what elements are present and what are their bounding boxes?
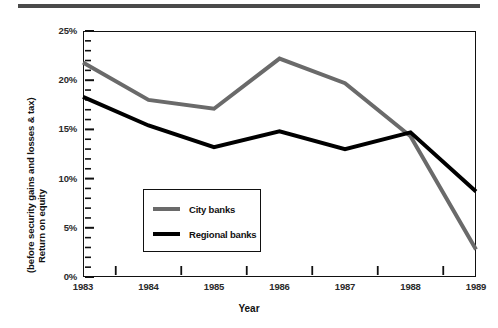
x-tick-label: 1987: [325, 281, 365, 292]
legend-swatch-city-banks: [153, 207, 180, 211]
chart-legend: City banks Regional banks: [143, 189, 261, 252]
x-axis-title: Year: [0, 303, 498, 314]
y-axis-title-line2: (before security gains and losses & tax): [25, 97, 36, 273]
legend-swatch-regional-banks: [153, 232, 180, 236]
legend-label-regional-banks: Regional banks: [189, 229, 256, 240]
x-tick-label: 1984: [129, 281, 169, 292]
y-axis-title-line1: Return on equity: [36, 189, 47, 263]
x-tick-label: 1988: [391, 281, 431, 292]
x-tick-label: 1986: [260, 281, 300, 292]
chart-figure: 0%5%10%15%20%25% 19831984198519861987198…: [0, 0, 498, 328]
x-tick-label: 1983: [63, 281, 103, 292]
x-tick-label: 1989: [456, 281, 496, 292]
x-axis-ticks: [116, 266, 444, 275]
y-axis-title: Return on equity (before security gains …: [16, 31, 56, 277]
series-lines: [83, 59, 476, 250]
legend-item-city-banks: City banks: [153, 202, 235, 216]
x-tick-label: 1985: [194, 281, 234, 292]
legend-item-regional-banks: Regional banks: [153, 227, 256, 241]
legend-label-city-banks: City banks: [189, 204, 235, 215]
